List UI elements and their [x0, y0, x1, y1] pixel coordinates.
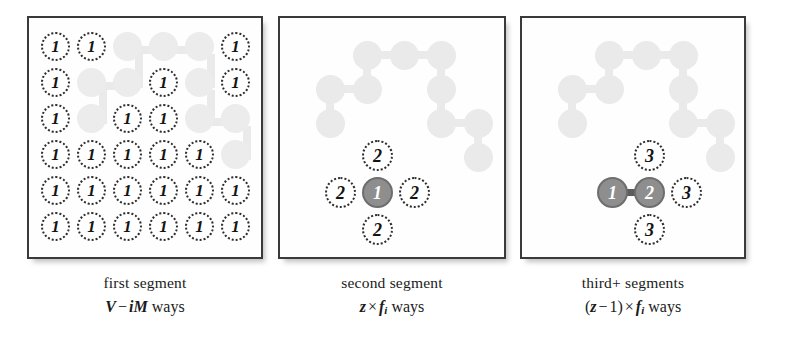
- ghost-node: [221, 140, 250, 169]
- ghost-node: [669, 109, 698, 138]
- ghost-bond: [341, 85, 361, 93]
- ghost-bond: [583, 85, 603, 93]
- candidate-node-3: 3: [671, 177, 702, 208]
- ghost-bond: [378, 51, 398, 59]
- ghost-bond: [716, 134, 724, 150]
- ghost-node: [316, 109, 345, 138]
- grid-node: 1: [113, 140, 142, 169]
- ghost-bond: [474, 134, 482, 150]
- ghost-node: [113, 32, 142, 61]
- formula-paren-close: ): [617, 298, 622, 315]
- candidate-node-3: 3: [634, 214, 665, 245]
- formula-op-minus: −: [596, 298, 609, 315]
- formula-suffix: ways: [391, 298, 424, 315]
- caption-title: third+ segments: [520, 274, 746, 292]
- caption-title: second segment: [278, 274, 506, 292]
- caption-formula: z×fi ways: [278, 298, 506, 316]
- ghost-node: [632, 41, 661, 70]
- formula-sub-i: i: [641, 304, 644, 316]
- ghost-node: [706, 109, 735, 138]
- ghost-bond: [679, 100, 687, 116]
- grid-node: 1: [77, 212, 106, 241]
- grid-node: 1: [149, 176, 178, 205]
- caption-first-segment: first segment V−iM ways: [27, 274, 263, 316]
- formula-suffix: ways: [152, 298, 185, 315]
- grid-node: 1: [221, 212, 250, 241]
- ghost-molecule-layer-3: [522, 18, 744, 257]
- ghost-node: [706, 143, 735, 172]
- ghost-node: [77, 104, 106, 133]
- ghost-node: [427, 41, 456, 70]
- grid-node: 1: [41, 32, 70, 61]
- ghost-node: [427, 109, 456, 138]
- ghost-node: [149, 32, 178, 61]
- filled-node-2: 2: [634, 177, 665, 208]
- ghost-bond: [694, 119, 714, 127]
- ghost-node: [221, 104, 250, 133]
- ghost-node: [427, 75, 456, 104]
- grid-node: 1: [185, 176, 214, 205]
- ghost-node: [558, 75, 587, 104]
- ghost-bond: [605, 66, 613, 82]
- caption-formula: (z−1)×fi ways: [520, 298, 746, 316]
- grid-node: 1: [149, 68, 178, 97]
- ghost-node: [77, 68, 106, 97]
- ghost-bond: [437, 100, 445, 116]
- ghost-node: [185, 104, 214, 133]
- ghost-bond: [657, 51, 677, 59]
- candidate-node-2: 2: [325, 177, 356, 208]
- formula-var-v: V: [105, 298, 116, 315]
- ghost-node: [669, 75, 698, 104]
- caption-second-segment: second segment z×fi ways: [278, 274, 506, 316]
- candidate-node-2: 2: [362, 214, 393, 245]
- ghost-bond: [326, 100, 334, 116]
- formula-suffix: ways: [648, 298, 681, 315]
- grid-node: 1: [221, 68, 250, 97]
- formula-op-times: ×: [366, 298, 379, 315]
- ghost-node: [669, 41, 698, 70]
- figure-root: 11111111111111111111111111: [0, 0, 785, 348]
- ghost-bond: [620, 51, 640, 59]
- grid-node: 1: [149, 212, 178, 241]
- grid-node: 1: [41, 140, 70, 169]
- grid-node: 1: [113, 104, 142, 133]
- ghost-node: [353, 41, 382, 70]
- ghost-bond: [679, 66, 687, 82]
- first-segment-panel: 11111111111111111111111111: [27, 16, 263, 259]
- ghost-node: [464, 109, 493, 138]
- grid-node: 1: [185, 140, 214, 169]
- ghost-bond: [363, 66, 371, 82]
- formula-sub-i: i: [384, 304, 387, 316]
- grid-node: 1: [149, 104, 178, 133]
- caption-title: first segment: [27, 274, 263, 292]
- ghost-bond: [568, 100, 576, 116]
- candidate-node-3: 3: [634, 140, 665, 171]
- third-plus-segments-panel: 31233: [520, 16, 746, 259]
- ghost-bond: [415, 51, 435, 59]
- grid-node: 1: [113, 176, 142, 205]
- grid-node: 1: [77, 176, 106, 205]
- filled-node-1: 1: [362, 177, 393, 208]
- ghost-node: [464, 143, 493, 172]
- ghost-node: [185, 68, 214, 97]
- ghost-node: [595, 41, 624, 70]
- grid-node: 1: [41, 212, 70, 241]
- ghost-node: [595, 75, 624, 104]
- grid-node: 1: [185, 212, 214, 241]
- candidate-node-2: 2: [399, 177, 430, 208]
- ghost-node: [390, 41, 419, 70]
- grid-node: 1: [149, 140, 178, 169]
- ghost-node: [558, 109, 587, 138]
- second-segment-panel: 22122: [278, 16, 506, 259]
- grid-node: 1: [77, 140, 106, 169]
- formula-op-minus: −: [116, 298, 129, 315]
- caption-formula: V−iM ways: [27, 298, 263, 316]
- filled-node-1: 1: [597, 177, 628, 208]
- ghost-bond: [437, 66, 445, 82]
- caption-third-plus-segments: third+ segments (z−1)×fi ways: [520, 274, 746, 316]
- grid-node: 1: [41, 176, 70, 205]
- grid-node: 1: [41, 104, 70, 133]
- grid-node: 1: [221, 32, 250, 61]
- ghost-node: [353, 75, 382, 104]
- ghost-node: [316, 75, 345, 104]
